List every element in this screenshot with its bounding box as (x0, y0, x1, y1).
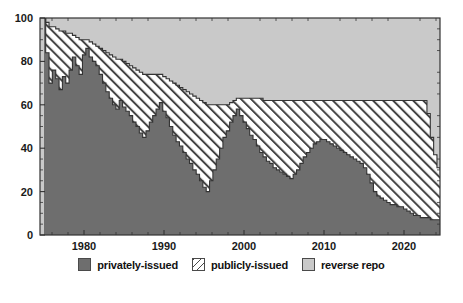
legend-item-publicly-issued: publicly-issued (192, 258, 288, 271)
legend-swatch-privately-issued (78, 258, 91, 271)
legend-label-reverse-repo: reverse repo (321, 259, 385, 271)
y-tick-label: 20 (21, 186, 33, 198)
legend-label-publicly-issued: publicly-issued (211, 259, 288, 271)
chart-legend: privately-issued publicly-issued reverse… (0, 258, 463, 271)
legend-swatch-publicly-issued (192, 258, 205, 271)
area-series-group (40, 18, 442, 235)
y-tick-label: 0 (27, 229, 33, 241)
x-tick-label: 1990 (152, 240, 176, 252)
x-tick-label: 2000 (232, 240, 256, 252)
legend-item-reverse-repo: reverse repo (302, 258, 385, 271)
legend-item-privately-issued: privately-issued (78, 258, 178, 271)
x-tick-label: 2020 (392, 240, 416, 252)
legend-swatch-reverse-repo (302, 258, 315, 271)
legend-label-privately-issued: privately-issued (97, 259, 178, 271)
x-tick-label: 1980 (72, 240, 96, 252)
stacked-area-chart-figure: 020406080100 19801990200020102020 privat… (0, 0, 463, 303)
y-tick-label: 100 (15, 12, 33, 24)
y-tick-label: 60 (21, 99, 33, 111)
x-tick-label: 2010 (312, 240, 336, 252)
y-tick-label: 40 (21, 142, 33, 154)
y-tick-label: 80 (21, 55, 33, 67)
